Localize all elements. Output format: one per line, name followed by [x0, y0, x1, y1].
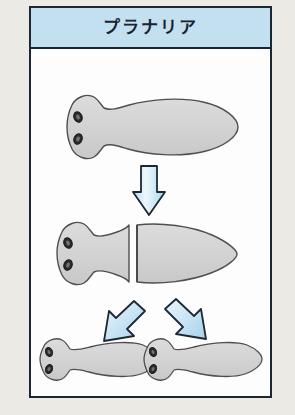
regenerated-planarian-right — [144, 339, 262, 380]
regenerated-planarian-left — [40, 339, 158, 380]
arrow-down-right — [165, 299, 206, 339]
stage-bisected-planarian — [57, 222, 237, 284]
diagram-panel: プラナリア — [29, 6, 272, 398]
planaria-regeneration-illustration — [31, 49, 270, 396]
diagram-canvas: intact planarian planarian cut into two … — [31, 49, 270, 396]
figure-root: プラナリア — [0, 0, 295, 415]
planarian-body-regenerated-right — [144, 339, 262, 380]
fragment-head — [57, 222, 129, 284]
arrow-down-center — [133, 166, 165, 215]
arrow-down-left — [104, 301, 145, 341]
planarian-body-intact — [67, 95, 238, 158]
stage-regenerated-planarians — [40, 339, 262, 380]
stage-intact-planarian — [67, 95, 238, 158]
title-bar: プラナリア — [31, 8, 270, 49]
page-title: プラナリア — [103, 19, 198, 36]
fragment-tail — [137, 224, 237, 283]
planarian-body-regenerated-left — [40, 339, 158, 380]
